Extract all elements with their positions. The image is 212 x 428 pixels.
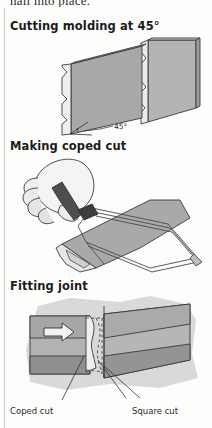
annotation-45-degrees: 45° — [114, 122, 128, 131]
label-coped-cut: Coped cut — [10, 406, 53, 416]
label-square-cut: Square cut — [132, 406, 178, 416]
heading-fitting-joint: Fitting joint — [10, 279, 88, 293]
figure-cutting-molding: 45° — [0, 34, 212, 139]
illustration-page: nail into place. Cutting molding at 45° — [0, 0, 212, 428]
heading-cutting-molding: Cutting molding at 45° — [10, 19, 160, 33]
figure-making-coped-cut — [0, 152, 212, 280]
figure-fitting-joint — [0, 294, 212, 404]
heading-making-coped-cut: Making coped cut — [10, 139, 126, 153]
truncated-body-text: nail into place. — [10, 0, 160, 7]
